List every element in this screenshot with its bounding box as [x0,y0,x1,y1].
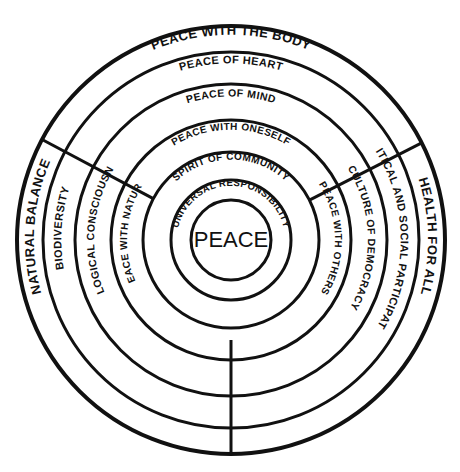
ring-5-left-label: BIODIVERSITY [51,185,71,271]
ring-4-top-label: PEACE OF MIND [185,86,278,105]
ring-1-top-label: UNIVERSAL RESPONSIBILITY [169,177,292,229]
ring-3-right-label: PEACE WITH OTHERS [317,180,344,298]
ring-6-top-label: PEACE WITH THE BODY [149,23,314,53]
peace-wheel-svg: UNIVERSAL RESPONSIBILITYSPIRIT OF COMMUN… [0,0,460,472]
ring-3-top-label: PEACE WITH ONESELF [169,121,292,148]
peace-wheel-diagram: UNIVERSAL RESPONSIBILITYSPIRIT OF COMMUN… [0,0,460,472]
center-label: PEACE [194,227,269,252]
center-layer: PEACE [191,200,271,280]
